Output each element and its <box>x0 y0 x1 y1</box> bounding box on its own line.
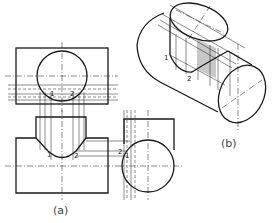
side-view-label-1: 1 <box>125 152 129 160</box>
iso-label-2: 2 <box>187 75 191 83</box>
top-view-label-2: 2 <box>70 90 74 98</box>
top-view-label-1: 1 <box>50 90 54 98</box>
caption-a: (a) <box>53 204 68 217</box>
iso-label-1: 1 <box>164 54 168 62</box>
front-view-label-2: 2 <box>74 152 78 160</box>
top-view <box>5 42 118 160</box>
drawing-canvas: 1 2 1 2 (a) 2 1 <box>0 0 274 223</box>
iso-end-centerline <box>222 80 262 108</box>
isometric-view <box>137 0 274 132</box>
front-view-label-1: 1 <box>47 151 51 159</box>
front-view-intersection-curve <box>36 138 86 158</box>
side-view-label-2: 2 <box>118 148 122 156</box>
caption-b: (b) <box>221 137 237 150</box>
construction-line <box>158 25 232 68</box>
front-view <box>5 110 130 200</box>
construction-line <box>170 55 225 85</box>
